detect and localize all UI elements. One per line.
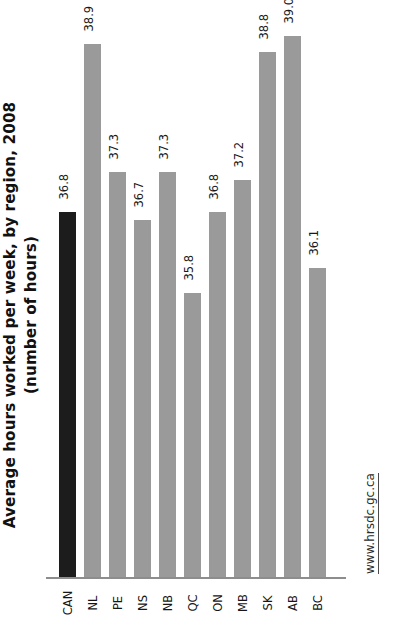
category-tick-sk: SK <box>255 581 280 627</box>
category-tick-label: ON <box>211 594 225 612</box>
bar-slot-nb: 37.3 <box>155 8 180 577</box>
category-tick-label: NB <box>161 595 175 612</box>
plot-area: 36.838.937.336.737.335.836.837.238.839.0… <box>46 8 346 579</box>
category-tick-ab: AB <box>280 581 305 627</box>
category-tick-nl: NL <box>80 581 105 627</box>
bar-series: 36.838.937.336.737.335.836.837.238.839.0… <box>46 8 346 577</box>
category-tick-label: QC <box>186 594 200 611</box>
bar-value-label-qc: 35.8 <box>182 256 196 281</box>
category-tick-can: CAN <box>55 581 80 627</box>
bar-slot-mb: 37.2 <box>230 8 255 577</box>
category-tick-on: ON <box>205 581 230 627</box>
category-tick-pe: PE <box>105 581 130 627</box>
bar-value-label-ab: 39.0 <box>282 0 296 24</box>
bar-value-label-ns: 36.7 <box>132 183 146 208</box>
category-tick-mb: MB <box>230 581 255 627</box>
bar-nb[interactable] <box>159 172 176 577</box>
bar-value-label-mb: 37.2 <box>232 143 246 168</box>
bar-mb[interactable] <box>234 180 251 577</box>
category-tick-label: NL <box>86 595 100 610</box>
category-tick-label: NS <box>136 595 150 611</box>
bar-sk[interactable] <box>259 52 276 577</box>
bar-value-label-nl: 38.9 <box>82 7 96 32</box>
bar-slot-can: 36.8 <box>55 8 80 577</box>
bar-slot-bc: 36.1 <box>305 8 330 577</box>
bar-value-label-nb: 37.3 <box>157 135 171 160</box>
page-title: Average hours worked per week, by region… <box>0 35 21 595</box>
category-tick-label: CAN <box>61 591 75 616</box>
category-tick-label: SK <box>261 596 275 611</box>
x-axis-line <box>46 577 346 579</box>
source-note: www.hrsdc.gc.ca <box>359 444 377 574</box>
bar-on[interactable] <box>209 212 226 577</box>
bar-slot-sk: 38.8 <box>255 8 280 577</box>
bar-value-label-can: 36.8 <box>57 175 71 200</box>
bar-slot-pe: 37.3 <box>105 8 130 577</box>
bar-slot-nl: 38.9 <box>80 8 105 577</box>
category-tick-bc: BC <box>305 581 330 627</box>
category-tick-label: BC <box>311 595 325 611</box>
bar-pe[interactable] <box>109 172 126 577</box>
bar-value-label-sk: 38.8 <box>257 15 271 40</box>
bar-can[interactable] <box>59 212 76 577</box>
source-link[interactable]: www.hrsdc.gc.ca <box>363 473 379 574</box>
chart-figure: Average hours worked per week, by region… <box>0 0 398 631</box>
bar-value-label-pe: 37.3 <box>107 135 121 160</box>
category-tick-ns: NS <box>130 581 155 627</box>
bar-ab[interactable] <box>284 36 301 577</box>
bar-slot-ab: 39.0 <box>280 8 305 577</box>
category-tick-label: PE <box>111 596 125 610</box>
bar-nl[interactable] <box>84 44 101 577</box>
category-tick-label: MB <box>236 594 250 612</box>
bar-bc[interactable] <box>309 268 326 577</box>
category-axis-labels: CANNLPENSNBQCONMBSKABBC <box>46 581 346 627</box>
category-tick-qc: QC <box>180 581 205 627</box>
bar-slot-qc: 35.8 <box>180 8 205 577</box>
bar-slot-ns: 36.7 <box>130 8 155 577</box>
category-tick-nb: NB <box>155 581 180 627</box>
bar-value-label-bc: 36.1 <box>307 231 321 256</box>
chart-subtitle: (number of hours) <box>21 35 42 595</box>
bar-ns[interactable] <box>134 220 151 577</box>
bar-slot-on: 36.8 <box>205 8 230 577</box>
category-tick-label: AB <box>286 595 300 611</box>
bar-value-label-on: 36.8 <box>207 175 221 200</box>
bar-qc[interactable] <box>184 293 201 577</box>
